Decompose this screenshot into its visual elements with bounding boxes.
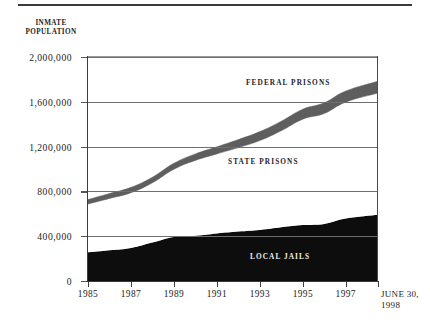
plot-border-right (377, 56, 378, 282)
y-axis-tick-label: 1,600,000 (0, 96, 72, 107)
gridline (88, 236, 378, 237)
x-axis-tick-label: 1991 (207, 289, 227, 299)
x-axis-tick-label: 1987 (121, 289, 141, 299)
gridline (88, 147, 378, 148)
plot-area: FEDERAL PRISONSSTATE PRISONSLOCAL JAILS (88, 57, 378, 281)
plot-border-left (87, 56, 88, 282)
x-axis-tick-label: JUNE 30, 1998 (381, 289, 419, 311)
y-axis-tick-label: 800,000 (0, 186, 72, 197)
inmate-population-figure: INMATE POPULATION FEDERAL PRISONSSTATE P… (0, 0, 430, 329)
x-axis-tick-label: 1995 (293, 289, 313, 299)
y-axis-tick-label: 2,000,000 (0, 52, 72, 63)
x-axis-tick-label: 1989 (164, 289, 184, 299)
header-rule (18, 4, 412, 6)
x-axis-tick-label: 1993 (250, 289, 270, 299)
y-axis-tick-label: 400,000 (0, 231, 72, 242)
series-label-federal-prisons: FEDERAL PRISONS (246, 78, 330, 87)
plot-border-top (87, 56, 378, 57)
y-axis-title: INMATE POPULATION (16, 19, 86, 37)
series-label-local-jails: LOCAL JAILS (250, 252, 310, 261)
x-axis-tick-label: 1997 (336, 289, 356, 299)
plot-border-bottom (87, 281, 378, 282)
series-label-state-prisons: STATE PRISONS (228, 157, 299, 166)
x-axis-tick-label: 1985 (78, 289, 98, 299)
y-axis-tick-label: 0 (0, 276, 72, 287)
gridline (88, 191, 378, 192)
area-chart-canvas (88, 57, 378, 281)
y-axis-tick-label: 1,200,000 (0, 141, 72, 152)
gridline (88, 102, 378, 103)
